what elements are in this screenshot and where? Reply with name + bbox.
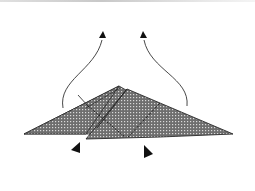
right-pivot-marker [144, 145, 153, 158]
left-pivot-marker [71, 142, 80, 153]
origami-diagram [0, 0, 255, 191]
right-fold-up-arrow [140, 31, 187, 106]
